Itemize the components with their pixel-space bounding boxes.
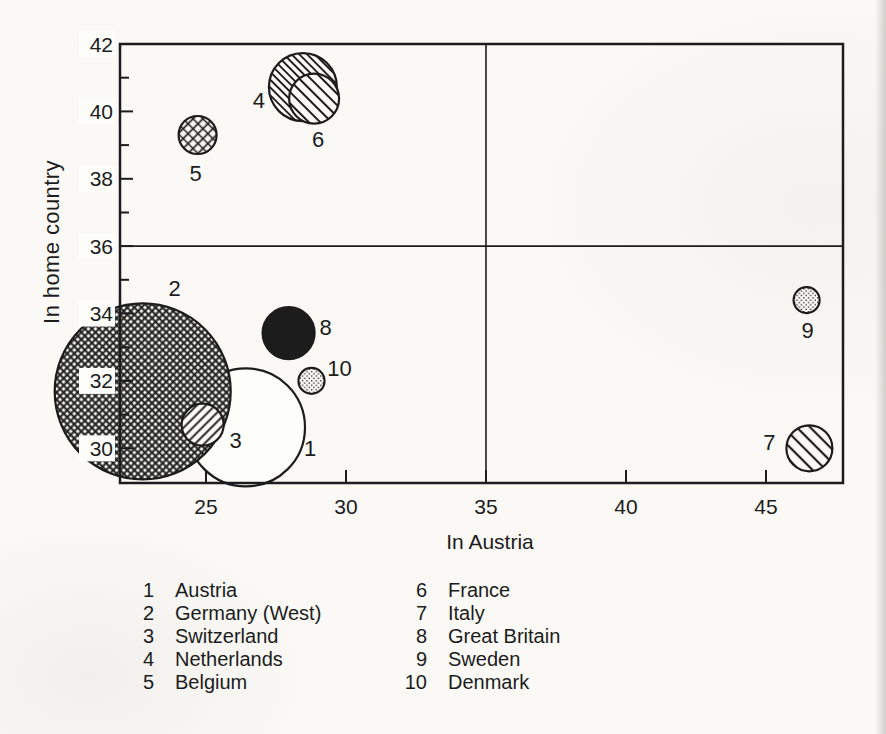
legend-item-number: 4 bbox=[118, 648, 154, 671]
bubble-great-britain bbox=[263, 307, 315, 359]
legend-item-name: Great Britain bbox=[448, 625, 560, 648]
y-tick-label: 40 bbox=[90, 100, 113, 123]
legend-item-number: 5 bbox=[118, 671, 154, 694]
x-tick-label: 35 bbox=[474, 495, 497, 518]
bubble-switzerland bbox=[182, 404, 224, 446]
page-edge-shadow bbox=[875, 0, 886, 734]
legend-item-austria: 1Austria bbox=[118, 579, 321, 602]
y-tick-label: 36 bbox=[90, 235, 113, 258]
legend-item-number: 3 bbox=[118, 625, 154, 648]
legend-column-1: 1Austria2Germany (West)3Switzerland4Neth… bbox=[118, 579, 321, 694]
bubble-number-label: 2 bbox=[169, 276, 181, 301]
x-tick-label: 30 bbox=[334, 495, 357, 518]
bubble-number-label: 6 bbox=[312, 127, 324, 152]
bubble-number-label: 8 bbox=[319, 315, 331, 340]
legend-item-name: Sweden bbox=[448, 648, 520, 671]
y-axis-title: In home country bbox=[39, 160, 65, 324]
legend-item-number: 2 bbox=[118, 602, 154, 625]
legend-item-great-britain: 8Great Britain bbox=[385, 625, 560, 648]
legend-item-number: 8 bbox=[385, 625, 427, 648]
legend-item-number: 1 bbox=[118, 579, 154, 602]
legend-item-name: Germany (West) bbox=[175, 602, 321, 625]
x-tick-label: 45 bbox=[754, 495, 777, 518]
legend-item-name: Belgium bbox=[175, 671, 247, 694]
bubble-number-label: 5 bbox=[189, 161, 201, 186]
y-tick-label: 42 bbox=[90, 33, 113, 56]
legend-item-name: Switzerland bbox=[175, 625, 278, 648]
legend-item-germany-west: 2Germany (West) bbox=[118, 602, 321, 625]
scanned-figure-page: 42403836343230253035404512345678910 In h… bbox=[0, 0, 886, 734]
bubble-number-label: 10 bbox=[327, 356, 351, 381]
x-tick-label: 40 bbox=[614, 495, 637, 518]
bubble-number-label: 9 bbox=[801, 318, 813, 343]
bubble-number-label: 3 bbox=[229, 428, 241, 453]
bubble-belgium bbox=[179, 116, 217, 154]
legend-item-italy: 7Italy bbox=[385, 602, 560, 625]
legend-item-number: 7 bbox=[385, 602, 427, 625]
bubble-france bbox=[289, 74, 339, 124]
legend-item-netherlands: 4Netherlands bbox=[118, 648, 321, 671]
legend-item-number: 9 bbox=[385, 648, 427, 671]
legend-item-sweden: 9Sweden bbox=[385, 648, 560, 671]
legend-item-switzerland: 3Switzerland bbox=[118, 625, 321, 648]
legend-item-france: 6France bbox=[385, 579, 560, 602]
legend-item-name: Austria bbox=[175, 579, 237, 602]
bubble-number-label: 4 bbox=[253, 88, 265, 113]
legend-column-2: 6France7Italy8Great Britain9Sweden10Denm… bbox=[385, 579, 560, 694]
y-tick-label: 34 bbox=[90, 302, 114, 325]
bubble-number-label: 1 bbox=[304, 436, 316, 461]
x-tick-label: 25 bbox=[194, 495, 217, 518]
legend-item-number: 6 bbox=[385, 579, 427, 602]
legend-item-denmark: 10Denmark bbox=[385, 671, 560, 694]
bubble-denmark bbox=[299, 368, 325, 394]
bubble-sweden bbox=[794, 287, 820, 313]
legend-item-name: Italy bbox=[448, 602, 485, 625]
bubble-number-label: 7 bbox=[763, 430, 775, 455]
y-tick-label: 32 bbox=[90, 369, 113, 392]
legend-item-name: France bbox=[448, 579, 510, 602]
legend-item-name: Denmark bbox=[448, 671, 529, 694]
x-axis-title: In Austria bbox=[446, 530, 534, 554]
y-tick-label: 30 bbox=[90, 437, 113, 460]
legend-item-name: Netherlands bbox=[175, 648, 283, 671]
legend-item-number: 10 bbox=[385, 671, 427, 694]
legend-item-belgium: 5Belgium bbox=[118, 671, 321, 694]
bubble-italy bbox=[786, 425, 832, 471]
y-tick-label: 38 bbox=[90, 167, 113, 190]
